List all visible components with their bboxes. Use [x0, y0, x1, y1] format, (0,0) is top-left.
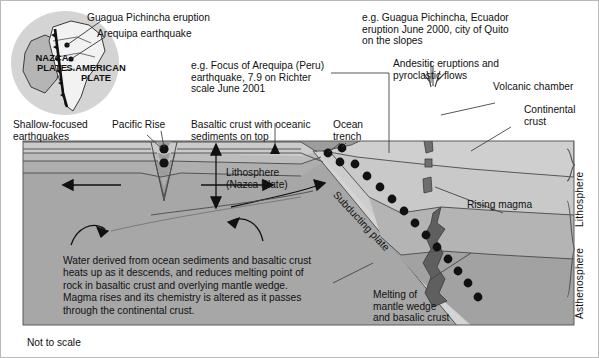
- annotation-rising-magma: Rising magma: [467, 199, 532, 211]
- annotation-lithosphere-nazca: Lithosphere (Nazca Plate): [226, 167, 288, 190]
- annotation-arequipa-note: e.g. Focus of Arequipa (Peru) earthquake…: [191, 60, 324, 95]
- annotation-melting-wedge: Melting of mantle wedge and basalic crus…: [373, 289, 449, 324]
- footer-not-to-scale: Not to scale: [27, 337, 81, 349]
- annotation-asthenosphere-right: Asthenosphere: [574, 215, 585, 319]
- map-label-s-american-plate: S.AMERICAN PLATE: [61, 63, 131, 84]
- annotation-ocean-trench: Ocean trench: [333, 119, 363, 142]
- annotation-andesitic-eruptions: Andesitic eruptions and pyroclastic flow…: [393, 58, 499, 81]
- annotation-volcanic-chamber: Volcanic chamber: [493, 81, 573, 93]
- annotation-basaltic-crust: Basaltic crust with oceanic sediments on…: [191, 119, 310, 142]
- annotation-body-text: Water derived from ocean sediments and b…: [63, 255, 313, 317]
- annotation-shallow-earthquakes: Shallow-focused earthquakes: [13, 119, 88, 142]
- annotation-pacific-rise: Pacific Rise: [112, 119, 165, 131]
- annotation-continental-crust: Continental crust: [524, 104, 576, 127]
- inset-callout-earthquake: Arequipa earthquake: [97, 28, 192, 40]
- diagram-canvas: Guagua Pichincha eruption Arequipa earth…: [0, 0, 599, 358]
- annotation-quito-note: e.g. Guagua Pichincha, Ecuador eruption …: [362, 12, 509, 47]
- inset-callout-eruption: Guagua Pichincha eruption: [87, 12, 210, 24]
